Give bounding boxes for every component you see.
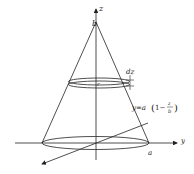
x-axis xyxy=(42,123,148,164)
equation-denominator: b xyxy=(168,108,171,114)
equation-close-paren: ) xyxy=(174,102,178,113)
base-radius-label-a: a xyxy=(148,149,152,157)
y-axis-label: y xyxy=(180,137,186,145)
z-axis-label: z xyxy=(98,4,104,13)
equation-numerator: z xyxy=(167,100,171,106)
radius-equation: y=a ( 1− z b ) xyxy=(131,100,178,114)
disk-radius-label-r: r xyxy=(97,81,100,87)
equation-one-minus: 1− xyxy=(155,104,165,112)
apex-label-b: b xyxy=(92,19,97,28)
equation-prefix: y=a xyxy=(131,104,146,112)
thickness-label-dz: dz xyxy=(126,68,134,76)
cone-diagram: z b r dz y a y=a ( 1− z b ) xyxy=(0,0,194,174)
